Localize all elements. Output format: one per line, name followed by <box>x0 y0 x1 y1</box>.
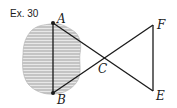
geometry-diagram: Ex. 30 A B C F E <box>0 0 177 108</box>
exercise-label: Ex. 30 <box>10 8 39 19</box>
label-B: B <box>56 93 66 107</box>
label-C: C <box>98 62 107 76</box>
label-E: E <box>155 89 165 103</box>
label-F: F <box>156 18 166 32</box>
label-A: A <box>56 12 66 26</box>
point-B-dot <box>51 91 55 95</box>
point-A-dot <box>51 21 55 25</box>
obstacle-region <box>23 23 81 94</box>
